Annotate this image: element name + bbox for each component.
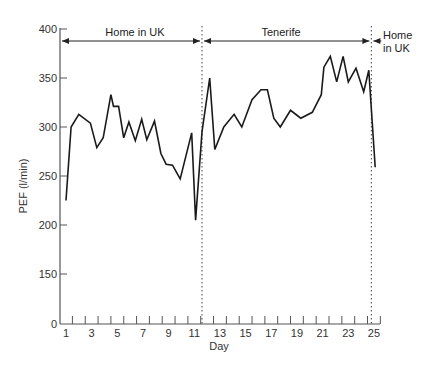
y-axis-label: PEF (l/min) [17,159,29,214]
arrowhead [193,38,200,44]
x-tick-label: 17 [265,327,277,339]
arrowhead [204,38,211,44]
y-tick-label: 250 [39,170,57,182]
x-tick-label: 11 [189,327,200,339]
x-tick-label: 19 [291,327,303,339]
x-tick-label: 15 [239,327,251,339]
period-label-tenerife: Tenerife [261,26,300,38]
x-axis-label: Day [209,340,229,352]
y-tick-label: 400 [39,23,57,35]
y-tick-label: 300 [39,121,57,133]
axes [60,28,380,324]
pef-line-chart: 0150200250300350400135791113151719212325… [0,0,432,371]
x-tick-label: 7 [140,327,146,339]
period-label-home-1: Home in UK [105,26,165,38]
pef-series-line [66,56,375,220]
y-tick-label: 0 [51,318,57,330]
arrowhead [62,38,69,44]
arrowhead [362,38,369,44]
axis-ticks: 0150200250300350400135791113151719212325 [39,23,381,339]
x-tick-label: 5 [114,327,120,339]
x-tick-label: 9 [166,327,172,339]
x-tick-label: 21 [316,327,328,339]
x-tick-label: 3 [89,327,95,339]
y-tick-label: 350 [39,72,57,84]
x-tick-label: 13 [214,327,226,339]
y-tick-label: 150 [39,268,57,280]
x-tick-label: 23 [342,327,354,339]
period-arrows [62,38,381,44]
period-label-home-2-line2: in UK [383,42,411,54]
period-label-home-2-line1: Home [383,29,412,41]
x-tick-label: 25 [368,327,380,339]
y-tick-label: 200 [39,219,57,231]
x-tick-label: 1 [63,327,69,339]
arrowhead [373,38,380,44]
